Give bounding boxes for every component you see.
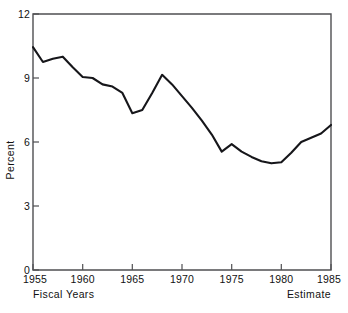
fiscal-years-caption: Fiscal Years <box>33 288 94 300</box>
x-tick-label-1970: 1970 <box>170 273 194 285</box>
y-tick-label-6: 6 <box>24 136 30 148</box>
axis-captions: Fiscal Years Estimate <box>33 288 331 300</box>
y-tick-label-12: 12 <box>18 8 30 20</box>
x-tick-label-1965: 1965 <box>120 273 144 285</box>
axis-frame <box>33 14 331 270</box>
percent-series-line <box>33 47 331 163</box>
x-tick-label-1985: 1985 <box>317 273 341 285</box>
x-tick-label-1960: 1960 <box>71 273 95 285</box>
data-series-group <box>33 47 331 163</box>
y-axis-tick-labels: 12 9 6 3 0 <box>18 8 30 276</box>
x-tick-label-1975: 1975 <box>220 273 244 285</box>
x-tick-label-1980: 1980 <box>269 273 293 285</box>
x-axis-ticks <box>33 264 331 270</box>
estimate-caption: Estimate <box>287 288 331 300</box>
y-axis-title-group: Percent <box>4 141 16 180</box>
y-axis-title: Percent <box>4 141 16 180</box>
chart-figure: 12 9 6 3 0 Percent 1955 1960 1965 1970 1… <box>0 0 348 313</box>
chart-svg: 12 9 6 3 0 Percent 1955 1960 1965 1970 1… <box>0 0 348 313</box>
x-axis-tick-labels: 1955 1960 1965 1970 1975 1980 1985 <box>23 273 341 285</box>
y-tick-label-3: 3 <box>24 200 30 212</box>
x-tick-label-1955: 1955 <box>23 273 47 285</box>
plot-border <box>33 14 331 270</box>
y-tick-label-9: 9 <box>24 72 30 84</box>
